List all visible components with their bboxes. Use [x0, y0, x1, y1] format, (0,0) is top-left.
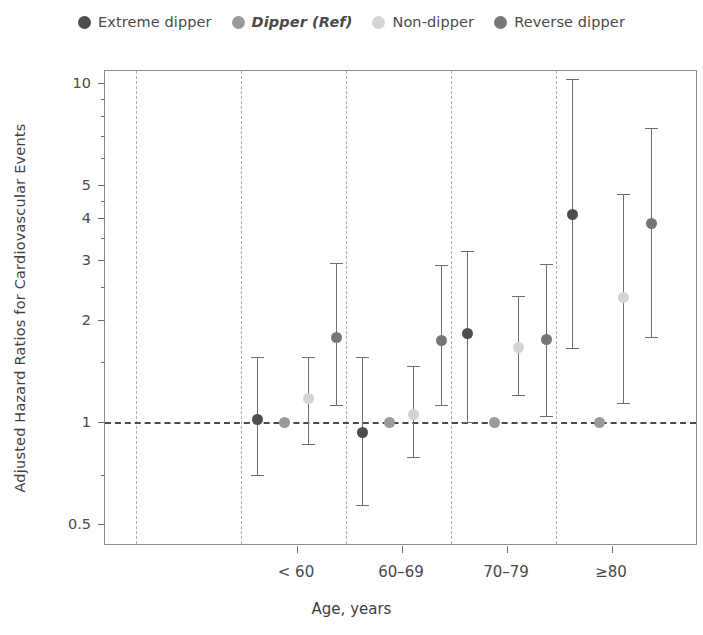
error-bar-cap-upper	[330, 263, 343, 264]
error-bar-cap-upper	[435, 265, 448, 266]
y-axis-tick-label: 0.5	[49, 516, 91, 532]
x-axis-tick-label: ≥80	[595, 563, 627, 581]
legend-item[interactable]: Reverse dipper	[494, 14, 625, 30]
error-bar-cap-upper	[512, 296, 525, 297]
y-axis-minor-tick	[101, 362, 105, 363]
data-point[interactable]	[303, 393, 314, 404]
group-separator-line	[346, 71, 347, 544]
error-bar	[651, 128, 652, 337]
x-axis-tick	[507, 546, 508, 553]
y-axis-title: Adjusted Hazard Ratios for Cardiovascula…	[8, 70, 30, 545]
error-bar-cap-upper	[407, 366, 420, 367]
legend-item-label: Non-dipper	[392, 14, 474, 30]
y-axis-tick	[98, 83, 105, 84]
error-bar-cap-lower	[566, 348, 579, 349]
error-bar-cap-upper	[617, 194, 630, 195]
y-axis-tick	[98, 320, 105, 321]
error-bar-cap-upper	[540, 264, 553, 265]
data-point[interactable]	[357, 427, 368, 438]
group-separator-line	[241, 71, 242, 544]
x-axis-tick-label: 60–69	[378, 563, 424, 581]
circle-marker-icon	[78, 16, 91, 29]
y-axis-tick-label: 10	[49, 75, 91, 91]
error-bar-cap-lower	[356, 505, 369, 506]
chart-legend: Extreme dipperDipper (Ref)Non-dipperReve…	[0, 14, 703, 30]
data-point[interactable]	[331, 332, 342, 343]
plot-area: 10543210.5	[104, 70, 697, 545]
data-point[interactable]	[567, 209, 578, 220]
error-bar-cap-lower	[435, 405, 448, 406]
data-point[interactable]	[436, 335, 447, 346]
circle-marker-icon	[232, 16, 245, 29]
data-point[interactable]	[279, 417, 290, 428]
legend-item-label: Dipper (Ref)	[252, 14, 353, 30]
data-point[interactable]	[541, 334, 552, 345]
y-axis-tick-label: 3	[49, 252, 91, 268]
error-bar-cap-lower	[407, 457, 420, 458]
group-separator-line	[136, 71, 137, 544]
x-axis-tick-label: < 60	[278, 563, 314, 581]
data-point[interactable]	[384, 417, 395, 428]
error-bar-cap-upper	[356, 357, 369, 358]
error-bar-cap-lower	[461, 422, 474, 423]
error-bar-cap-lower	[617, 403, 630, 404]
legend-item-label: Reverse dipper	[514, 14, 625, 30]
y-axis-tick-label: 1	[49, 414, 91, 430]
y-axis-minor-tick	[101, 238, 105, 239]
group-separator-line	[451, 71, 452, 544]
y-axis-title-text: Adjusted Hazard Ratios for Cardiovascula…	[11, 123, 27, 492]
y-axis-minor-tick	[101, 136, 105, 137]
data-point[interactable]	[513, 342, 524, 353]
group-separator-line	[556, 71, 557, 544]
error-bar-cap-upper	[251, 357, 264, 358]
error-bar-cap-lower	[645, 337, 658, 338]
data-point[interactable]	[462, 328, 473, 339]
y-axis-tick	[98, 218, 105, 219]
y-axis-minor-tick	[101, 158, 105, 159]
y-axis-minor-tick	[101, 475, 105, 476]
error-bar-cap-upper	[645, 128, 658, 129]
error-bar-cap-upper	[461, 251, 474, 252]
reference-line-hr-1	[105, 422, 696, 424]
error-bar-cap-lower	[330, 405, 343, 406]
error-bar-cap-lower	[251, 475, 264, 476]
legend-item-label: Extreme dipper	[98, 14, 212, 30]
chart-root: Extreme dipperDipper (Ref)Non-dipperReve…	[0, 0, 703, 635]
data-point[interactable]	[646, 218, 657, 229]
y-axis-tick-label: 2	[49, 312, 91, 328]
y-axis-minor-tick	[101, 287, 105, 288]
y-axis-minor-tick	[101, 116, 105, 117]
legend-item[interactable]: Dipper (Ref)	[232, 14, 353, 30]
legend-item[interactable]: Extreme dipper	[78, 14, 212, 30]
data-point[interactable]	[408, 409, 419, 420]
y-axis-tick	[98, 260, 105, 261]
y-axis-minor-tick	[101, 99, 105, 100]
circle-marker-icon	[372, 16, 385, 29]
y-axis-tick	[98, 422, 105, 423]
y-axis-tick-label: 5	[49, 177, 91, 193]
data-point[interactable]	[489, 417, 500, 428]
error-bar-cap-upper	[302, 357, 315, 358]
x-axis-title: Age, years	[0, 600, 703, 618]
data-point[interactable]	[618, 292, 629, 303]
x-axis-tick	[297, 546, 298, 553]
y-axis-tick	[98, 524, 105, 525]
y-axis-minor-tick	[101, 201, 105, 202]
x-axis-tick	[612, 546, 613, 553]
error-bar-cap-lower	[302, 444, 315, 445]
circle-marker-icon	[494, 16, 507, 29]
y-axis-tick	[98, 185, 105, 186]
error-bar-cap-upper	[566, 79, 579, 80]
data-point[interactable]	[252, 414, 263, 425]
y-axis-tick-label: 4	[49, 210, 91, 226]
x-axis-tick	[402, 546, 403, 553]
data-point[interactable]	[594, 417, 605, 428]
error-bar-cap-lower	[512, 395, 525, 396]
legend-item[interactable]: Non-dipper	[372, 14, 474, 30]
x-axis-tick-label: 70–79	[483, 563, 529, 581]
error-bar-cap-lower	[540, 416, 553, 417]
